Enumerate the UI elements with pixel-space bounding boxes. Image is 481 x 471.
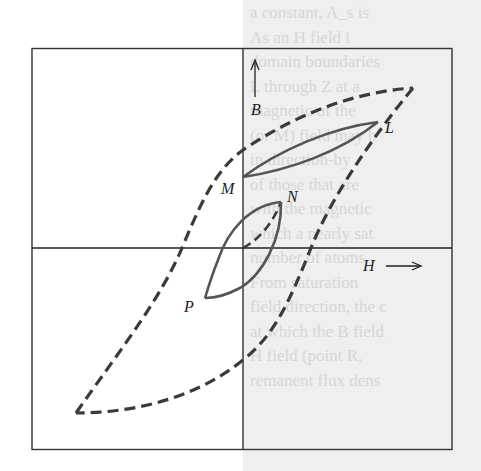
hysteresis-diagram xyxy=(0,0,481,471)
b-arrow-icon xyxy=(251,60,259,97)
point-label-N: N xyxy=(287,188,298,206)
b-axis-label: B xyxy=(251,101,261,119)
minor-loop-LM xyxy=(243,122,378,177)
point-label-L: L xyxy=(385,119,394,137)
point-label-M: M xyxy=(221,180,234,198)
point-label-P: P xyxy=(184,298,194,316)
figure-frame xyxy=(32,49,452,450)
h-arrow-icon xyxy=(386,262,421,270)
h-axis-label: H xyxy=(363,257,375,275)
major-loop xyxy=(76,88,413,413)
